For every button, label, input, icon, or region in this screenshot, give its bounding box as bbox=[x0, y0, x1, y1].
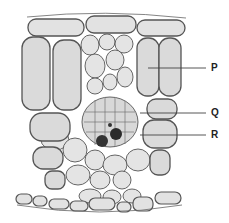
xylem-cluster bbox=[110, 128, 122, 140]
palisade-cells-right bbox=[137, 38, 181, 96]
palisade-cells-left bbox=[22, 37, 81, 110]
label-q: Q bbox=[211, 107, 219, 118]
label-p: P bbox=[211, 62, 218, 73]
phloem-cluster bbox=[96, 135, 108, 147]
leaf-cross-section-diagram bbox=[0, 0, 229, 223]
vascular-bundle bbox=[82, 97, 138, 147]
label-r: R bbox=[211, 129, 218, 140]
upper-epidermis bbox=[28, 16, 185, 36]
